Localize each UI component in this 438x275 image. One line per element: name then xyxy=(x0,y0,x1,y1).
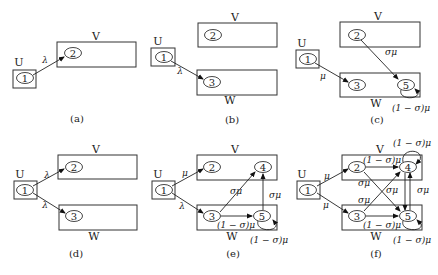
node-5-label: 5 xyxy=(405,211,411,222)
caption-a: (a) xyxy=(70,113,84,124)
node-2-label: 2 xyxy=(71,162,77,173)
node-3-label: 3 xyxy=(354,80,360,91)
caption-d: (d) xyxy=(69,248,83,259)
group-w-label: W xyxy=(370,97,382,110)
group-u-label: U xyxy=(297,37,306,50)
node-3-label: 3 xyxy=(71,211,77,222)
group-u-label: U xyxy=(153,35,162,48)
edge-label-1-3: λ xyxy=(178,201,185,211)
node-4-label: 4 xyxy=(260,162,266,173)
group-v-label: V xyxy=(91,143,101,156)
edge-1-3 xyxy=(317,193,348,213)
edge-label-1-2: λ xyxy=(43,170,50,180)
node-2-label: 2 xyxy=(210,30,216,41)
node-1-label: 1 xyxy=(22,185,28,196)
panel-a: V U λ 1 2 (a) xyxy=(13,30,136,124)
node-2-label: 2 xyxy=(354,30,360,41)
edge-label-3-4: σμ xyxy=(358,195,370,205)
edge-label-1-3: λ xyxy=(41,200,48,210)
edge-label-4-5: σμ xyxy=(386,185,398,195)
edge-label-1-3: μ xyxy=(323,200,329,210)
group-w-label: W xyxy=(226,230,238,243)
edge-label-4-4: (1 − σ)μ xyxy=(393,138,431,148)
edge-label-5-5: (1 − σ)μ xyxy=(392,103,430,113)
group-v-label: V xyxy=(91,30,101,43)
node-2-label: 2 xyxy=(209,162,215,173)
edge-label-2-5: σμ xyxy=(358,178,370,188)
edge-label-5-5: (1 − σ)μ xyxy=(250,235,288,245)
edge-label-5-5: (1 − σ)μ xyxy=(393,235,431,245)
panel-c: V U W μ σμ (1 − σ)μ 1 2 3 5 (c) xyxy=(296,10,430,125)
node-5-label: 5 xyxy=(259,211,265,222)
node-5-label: 5 xyxy=(403,80,409,91)
node-3-label: 3 xyxy=(209,211,215,222)
edge-label-1-2: μ xyxy=(182,168,188,178)
panel-b: V U W λ 1 2 3 (b) xyxy=(151,11,277,125)
node-1-label: 1 xyxy=(161,185,167,196)
node-3-label: 3 xyxy=(209,77,215,88)
edge-1-2 xyxy=(33,57,64,75)
group-u-label: U xyxy=(14,56,23,69)
edge-label-1-3: λ xyxy=(176,66,183,76)
group-v-label: V xyxy=(230,11,240,24)
caption-b: (b) xyxy=(225,114,239,125)
node-3-label: 3 xyxy=(354,211,360,222)
edge-label-3-5: (1 − σ)μ xyxy=(363,220,401,230)
panel-d: V U W λ λ 1 2 3 (d) xyxy=(14,143,137,259)
edge-label-5-4: σμ xyxy=(269,190,281,200)
edge-label-2-5: σμ xyxy=(385,47,397,57)
panel-f: V U W μ μ (1 − σ)μ σμ σμ (1 − σ)μ σμ σμ … xyxy=(297,138,431,259)
edge-label-5-4: σμ xyxy=(417,185,429,195)
edge-1-2 xyxy=(317,169,348,186)
state-transition-figure: V U λ 1 2 (a) V U W λ 1 2 3 (b) V U W xyxy=(0,0,438,275)
node-2-label: 2 xyxy=(70,48,76,59)
group-v-label: V xyxy=(373,10,383,23)
caption-f: (f) xyxy=(370,248,382,259)
caption-e: (e) xyxy=(226,248,240,259)
edge-label-2-4: (1 − σ)μ xyxy=(363,155,401,165)
panel-e: V U W μ λ σμ (1 − σ)μ σμ (1 − σ)μ 1 2 3 … xyxy=(152,143,288,259)
edge-label-1-2: μ xyxy=(324,171,330,181)
node-1-label: 1 xyxy=(305,54,311,65)
group-w-label: W xyxy=(370,230,382,243)
caption-c: (c) xyxy=(370,114,384,125)
node-1-label: 1 xyxy=(305,185,311,196)
group-u-label: U xyxy=(153,168,162,181)
node-2-label: 2 xyxy=(354,162,360,173)
edge-label-1-3: μ xyxy=(320,71,326,81)
group-v-label: V xyxy=(230,143,240,156)
group-w-label: W xyxy=(88,230,100,243)
node-1-label: 1 xyxy=(161,52,167,63)
edge-1-3 xyxy=(33,193,65,213)
group-u-label: U xyxy=(15,168,24,181)
edge-1-3 xyxy=(172,193,203,213)
edge-label-3-5: (1 − σ)μ xyxy=(217,220,255,230)
edge-label-3-4: σμ xyxy=(230,186,242,196)
group-w-label: W xyxy=(224,94,236,107)
group-u-label: U xyxy=(297,168,306,181)
node-4-label: 4 xyxy=(405,162,411,173)
edge-label-1-2: λ xyxy=(41,55,48,65)
node-1-label: 1 xyxy=(22,73,28,84)
